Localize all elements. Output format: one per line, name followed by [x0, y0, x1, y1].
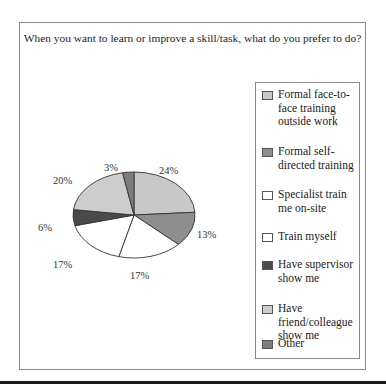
legend-swatch — [262, 148, 273, 157]
slice-label-supervisor: 6% — [38, 222, 52, 233]
slice-label-friend-colleague: 20% — [53, 175, 72, 186]
legend-swatch — [262, 261, 273, 270]
legend-swatch — [262, 233, 273, 242]
legend-item-specialist: Specialist train me on-site — [262, 188, 358, 215]
legend-item-other: Other — [262, 337, 358, 351]
slice-label-formal-face-to-face: 24% — [159, 165, 178, 176]
pie-slice — [134, 172, 195, 215]
legend-swatch — [262, 191, 273, 200]
slice-label-self-directed: 13% — [197, 229, 216, 240]
chart-frame: When you want to learn or improve a skil… — [19, 22, 366, 370]
slice-label-specialist: 17% — [130, 270, 149, 281]
legend-swatch — [262, 305, 273, 314]
legend-swatch — [262, 91, 273, 100]
legend-item-self-directed: Formal self-directed training — [262, 145, 358, 172]
slice-label-other: 3% — [104, 162, 118, 173]
bottom-rule — [0, 381, 386, 384]
slice-label-train-myself: 17% — [53, 259, 72, 270]
legend-item-train-myself: Train myself — [262, 230, 358, 244]
legend-item-supervisor: Have supervisor show me — [262, 258, 358, 285]
legend-item-formal-face-to-face: Formal face-to-face training outside wor… — [262, 88, 358, 129]
chart-legend: Formal face-to-face training outside wor… — [255, 82, 360, 359]
legend-swatch — [262, 340, 273, 349]
